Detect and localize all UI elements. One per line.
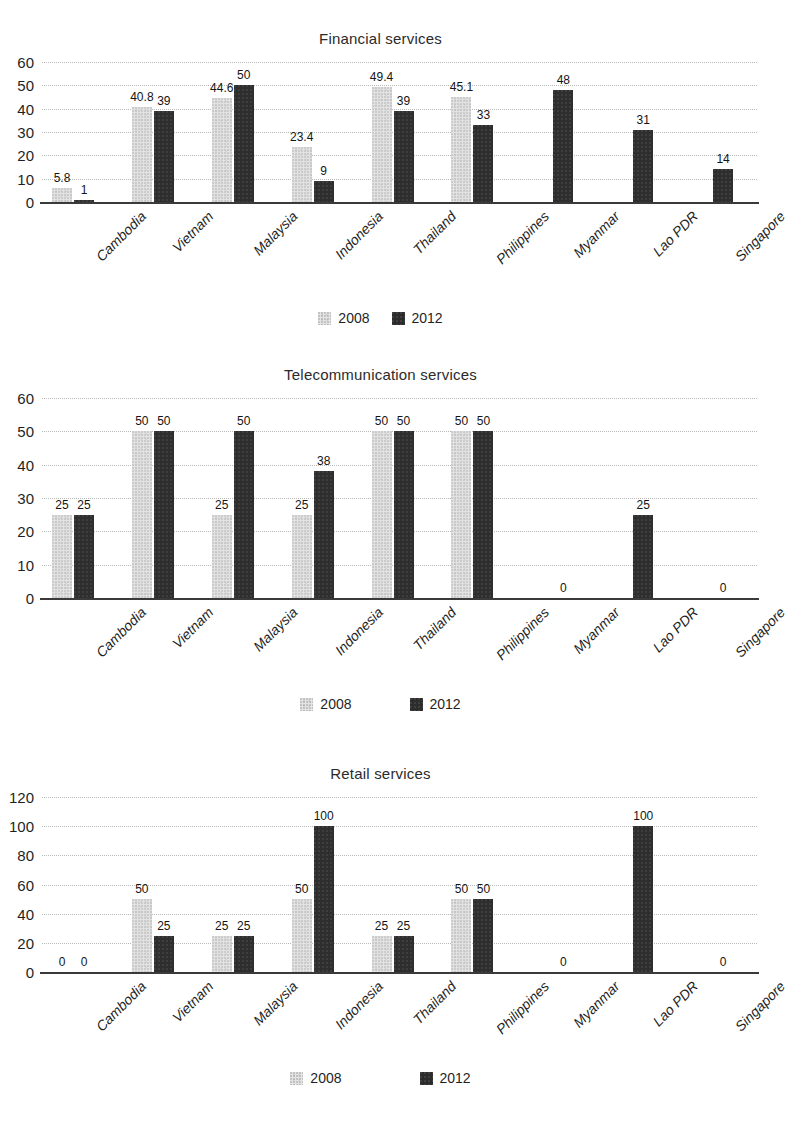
legend-swatch-2008-icon	[300, 698, 313, 711]
data-label-2012: 50	[477, 414, 490, 428]
data-label-2008: 0	[59, 955, 66, 969]
data-label-2012: 0	[81, 955, 88, 969]
data-label-2008: 44.6	[210, 81, 233, 95]
chart-title: Financial services	[0, 30, 761, 47]
chart-title: Retail services	[0, 765, 761, 782]
data-label-2008: 50	[135, 414, 148, 428]
bar-2012	[473, 899, 493, 972]
x-axis-label-singapore: Singapore	[732, 604, 788, 660]
data-label-2008: 25	[295, 498, 308, 512]
bar-group: 48	[519, 62, 599, 202]
data-label-2012: 25	[637, 498, 650, 512]
y-axis-tick-label: 40	[17, 100, 34, 117]
x-axis-baseline	[40, 202, 759, 204]
bar-group: 5050	[439, 797, 519, 972]
bar-group: 2525	[40, 398, 120, 598]
data-label-2008: 25	[375, 919, 388, 933]
data-label-2008: 50	[455, 882, 468, 896]
bar-2012	[394, 111, 414, 202]
data-label-2012: 1	[81, 183, 88, 197]
y-axis: 0102030405060	[0, 62, 40, 202]
legend-item-2008: 2008	[318, 310, 369, 326]
bar-2012	[154, 111, 174, 202]
bar-2012	[633, 515, 653, 598]
bar-2012	[314, 471, 334, 598]
bar-group: 100	[599, 797, 679, 972]
bar-group: 0	[519, 398, 599, 598]
x-axis-baseline	[40, 598, 759, 600]
bar-2008	[132, 899, 152, 972]
legend-item-2012: 2012	[410, 696, 461, 712]
data-label-2012: 14	[716, 152, 729, 166]
x-axis-label-vietnam: Vietnam	[169, 604, 216, 651]
x-axis-label-cambodia: Cambodia	[93, 208, 149, 264]
bar-2008	[372, 936, 392, 972]
bar-2012	[713, 169, 733, 202]
x-axis-label-singapore: Singapore	[732, 208, 788, 264]
data-label-2012: 50	[237, 68, 250, 82]
y-axis-tick-label: 40	[17, 456, 34, 473]
y-axis-tick-label: 0	[26, 964, 34, 981]
x-axis-baseline	[40, 972, 759, 974]
bar-group: 2525	[360, 797, 440, 972]
y-axis-tick-label: 60	[17, 876, 34, 893]
bar-group: 40.839	[120, 62, 200, 202]
data-label-2012: 25	[397, 919, 410, 933]
bar-2012	[154, 936, 174, 972]
bar-2012	[394, 431, 414, 598]
bar-group: 50100	[280, 797, 360, 972]
data-label-2012: 100	[633, 809, 653, 823]
data-label-2008: 40.8	[130, 90, 153, 104]
bar-group: 44.650	[200, 62, 280, 202]
data-label-2008: 50	[135, 882, 148, 896]
data-label-2008: 49.4	[370, 70, 393, 84]
bar-2012	[154, 431, 174, 598]
bar-group: 0	[679, 797, 759, 972]
x-axis-label-philippines: Philippines	[493, 604, 552, 663]
legend-label: 2008	[310, 1070, 341, 1086]
x-axis-label-myanmar: Myanmar	[570, 978, 623, 1031]
bar-group: 0	[679, 398, 759, 598]
x-axis-label-cambodia: Cambodia	[93, 978, 149, 1034]
x-axis-label-vietnam: Vietnam	[169, 978, 216, 1025]
data-label-2008: 50	[455, 414, 468, 428]
bar-group: 2550	[200, 398, 280, 598]
bar-group: 49.439	[360, 62, 440, 202]
bar-2008	[451, 431, 471, 598]
y-axis-tick-label: 0	[26, 590, 34, 607]
plot-area: 01020304050605.8140.83944.65023.4949.439…	[0, 62, 761, 202]
bar-2012	[234, 431, 254, 598]
x-axis-label-lao-pdr: Lao PDR	[650, 208, 701, 259]
data-label-2008: 45.1	[450, 80, 473, 94]
x-axis-label-thailand: Thailand	[409, 208, 458, 257]
bar-2008	[372, 431, 392, 598]
legend-swatch-2008-icon	[290, 1072, 303, 1085]
bars-layer: 0050252525501002525505001000	[40, 797, 759, 972]
bar-group: 45.133	[439, 62, 519, 202]
data-label-2008: 25	[215, 919, 228, 933]
y-axis-tick-label: 30	[17, 124, 34, 141]
legend-item-2012: 2012	[392, 310, 443, 326]
legend-swatch-2012-icon	[410, 698, 423, 711]
bar-group: 23.49	[280, 62, 360, 202]
x-axis-label-thailand: Thailand	[409, 604, 458, 653]
legend-label: 2012	[440, 1070, 471, 1086]
data-label-2012: 100	[314, 809, 334, 823]
data-label-2012: 25	[77, 498, 90, 512]
x-axis-label-indonesia: Indonesia	[331, 604, 385, 658]
bar-2012	[473, 125, 493, 202]
bar-group: 31	[599, 62, 679, 202]
data-label-2012: 0	[560, 581, 567, 595]
bar-2012	[234, 936, 254, 972]
y-axis-tick-label: 80	[17, 847, 34, 864]
bar-2008	[451, 899, 471, 972]
bar-2012	[234, 85, 254, 202]
bar-2008	[132, 107, 152, 202]
bar-2012	[74, 200, 94, 202]
bar-2012	[473, 431, 493, 598]
bar-2008	[292, 147, 312, 202]
legend-item-2008: 2008	[290, 1070, 341, 1086]
legend-label: 2012	[430, 696, 461, 712]
plot-area: 0204060801001200050252525501002525505001…	[0, 797, 761, 972]
y-axis-tick-label: 30	[17, 490, 34, 507]
